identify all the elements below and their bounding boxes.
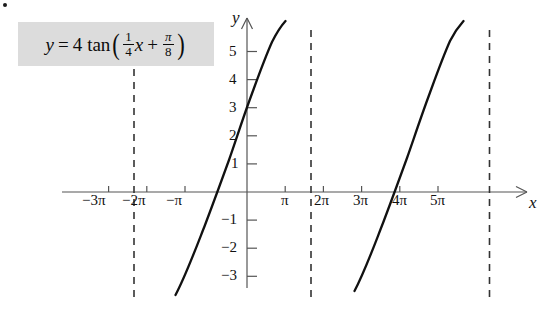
y-tick-label-1: 1 [231, 155, 239, 172]
x-axis-ticks [109, 186, 438, 192]
x-tick-label-neg-3pi: −3π [82, 192, 106, 209]
x-tick-label-3pi: 3π [353, 192, 368, 209]
equation-equals: = [58, 35, 69, 54]
x-tick-label-2pi: 2π [314, 192, 329, 209]
equation-label-box: y = 4 tan ( 1 4 x + π 8 ) [18, 22, 214, 66]
x-tick-label-4pi: 4π [392, 192, 407, 209]
curve-right-branch [355, 21, 464, 291]
y-axis [242, 18, 253, 288]
equation-lhs: y [45, 35, 53, 54]
equation-expression: y = 4 tan ( 1 4 x + π 8 ) [45, 30, 186, 58]
x-tick-label-neg-2pi: −2π [122, 192, 146, 209]
coefficient-denominator: 4 [123, 44, 134, 58]
y-tick-label-2: 2 [229, 127, 237, 144]
equation-function-name: tan [87, 35, 110, 54]
equation-amplitude: 4 [73, 35, 83, 54]
equation-coefficient-fraction: 1 4 [123, 30, 134, 58]
y-tick-label-3: 3 [229, 99, 237, 116]
equation-variable: x [135, 35, 143, 54]
x-tick-label-pi: π [281, 192, 289, 209]
x-tick-label-5pi: 5π [430, 192, 445, 209]
y-tick-label-5: 5 [229, 43, 237, 60]
equation-close-paren: ) [177, 32, 185, 55]
curve-branches [176, 21, 464, 295]
equation-phase-fraction: π 8 [163, 30, 174, 58]
equation-open-paren: ( [113, 32, 121, 55]
y-tick-label-neg-3: −3 [221, 267, 237, 284]
asymptote-lines [134, 30, 490, 300]
phase-numerator: π [163, 30, 174, 43]
coefficient-numerator: 1 [123, 30, 134, 43]
y-axis-name: y [232, 8, 240, 28]
x-axis-name: x [529, 193, 537, 213]
equation-plus: + [147, 35, 158, 54]
y-tick-label-neg-2: −2 [221, 239, 237, 256]
y-tick-label-4: 4 [229, 71, 237, 88]
phase-denominator: 8 [163, 44, 174, 58]
y-tick-label-neg-1: −1 [221, 211, 237, 228]
x-tick-label-neg-pi: −π [166, 192, 182, 209]
